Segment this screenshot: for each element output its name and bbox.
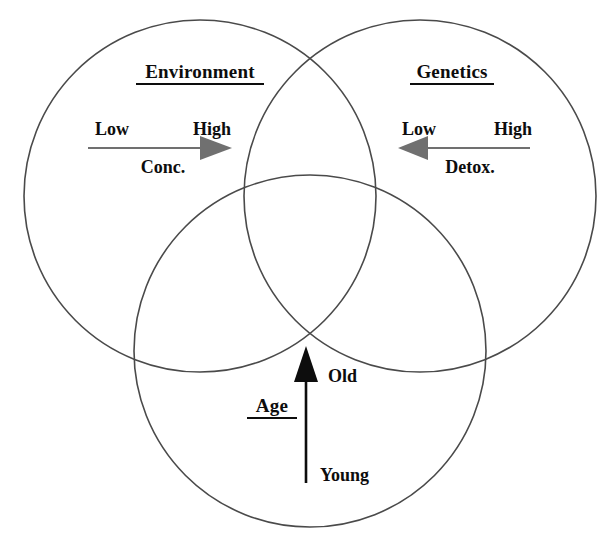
age-arrow	[294, 346, 318, 483]
genetics-title: Genetics	[416, 61, 487, 82]
environment-title: Environment	[145, 61, 255, 82]
detox-low-label: Low	[402, 119, 436, 139]
detox-axis-label: Detox.	[445, 157, 494, 177]
age-title: Age	[256, 395, 288, 416]
detox-high-label: High	[494, 119, 532, 139]
detox-arrow-head	[398, 136, 428, 160]
conc-axis-label: Conc.	[141, 157, 186, 177]
age-old-label: Old	[328, 366, 357, 386]
conc-low-label: Low	[95, 119, 129, 139]
genetics-group: Genetics Low High Detox.	[398, 61, 532, 177]
venn-diagram: Environment Low High Conc. Genetics Low …	[0, 0, 615, 546]
venn-circles	[24, 20, 596, 527]
conc-high-label: High	[193, 119, 231, 139]
environment-group: Environment Low High Conc.	[88, 61, 264, 177]
age-group: Age Old Young	[247, 346, 369, 485]
age-arrow-head	[294, 346, 318, 382]
circle-age	[134, 175, 486, 527]
age-young-label: Young	[320, 465, 369, 485]
conc-arrow-head	[200, 136, 232, 160]
